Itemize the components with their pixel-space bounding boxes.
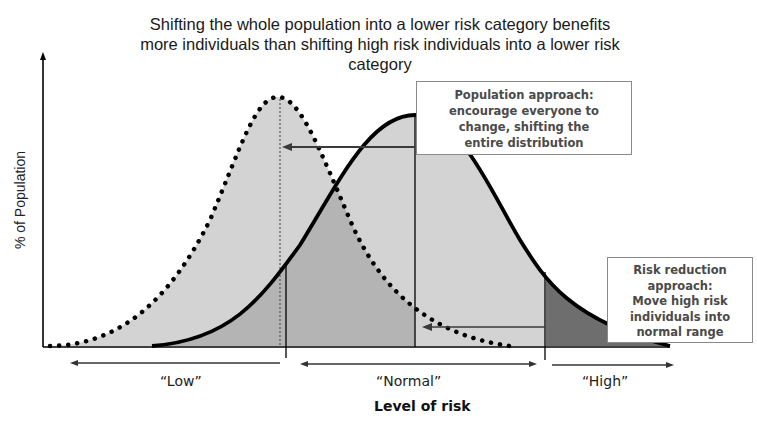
risk-callout-line-5: normal range [608, 325, 752, 341]
risk-reduction-callout: Risk reduction approach: Move high risk … [607, 257, 753, 343]
distribution-diagram [0, 0, 757, 421]
normal-range-left-arrowhead [300, 361, 308, 367]
population-callout-line-4: entire distribution [417, 135, 631, 151]
x-axis-label: Level of risk [374, 398, 471, 414]
population-callout-line-3: change, shifting the [417, 119, 631, 135]
normal-range-right-arrowhead [529, 361, 537, 367]
risk-callout-line-4: individuals into [608, 310, 752, 326]
low-range-arrowhead [70, 360, 78, 366]
y-axis-label: % of Population [12, 151, 28, 249]
risk-callout-line-3: Move high risk [608, 294, 752, 310]
category-high-label: “High” [582, 373, 628, 389]
category-low-label: “Low” [160, 373, 202, 389]
population-approach-callout: Population approach: encourage everyone … [416, 81, 632, 155]
category-normal-label: “Normal” [376, 373, 441, 389]
population-callout-line-1: Population approach: [417, 87, 631, 103]
population-callout-line-2: encourage everyone to [417, 103, 631, 119]
risk-callout-line-1: Risk reduction [608, 263, 752, 279]
y-axis-arrowhead [40, 52, 46, 60]
high-range-arrowhead [666, 362, 674, 368]
risk-callout-line-2: approach: [608, 279, 752, 295]
